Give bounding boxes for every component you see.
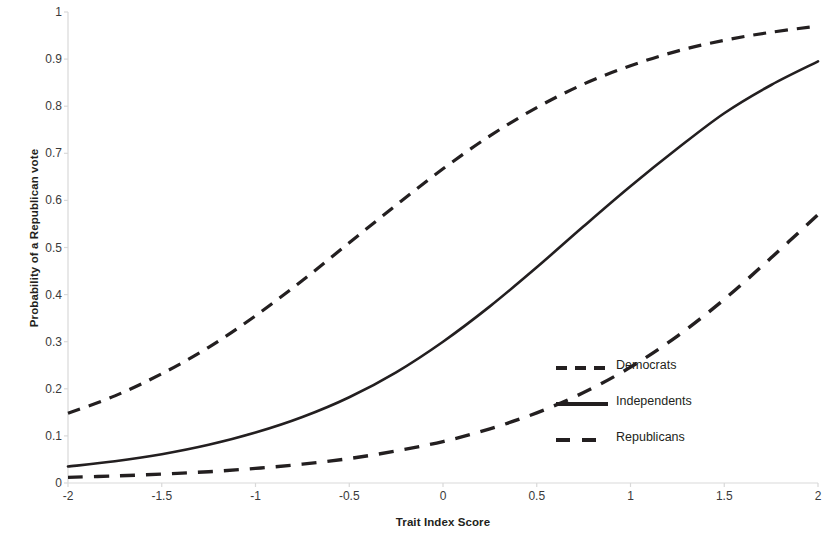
x-tick-label: -0.5 xyxy=(319,489,379,503)
x-tick-label: -2 xyxy=(38,489,98,503)
x-tick-label: 2 xyxy=(788,489,826,503)
x-tick-label: -1 xyxy=(226,489,286,503)
x-tick-label: -1.5 xyxy=(132,489,192,503)
legend-item-independents: Independents xyxy=(556,392,766,428)
x-tick-label: 1.5 xyxy=(694,489,754,503)
chart-legend: Democrats Independents Republicans xyxy=(556,356,766,464)
legend-key-republicans xyxy=(556,438,608,442)
y-axis-title: Probability of a Republican vote xyxy=(28,108,40,368)
y-tick-label: 0 xyxy=(16,477,62,489)
legend-label-republicans: Republicans xyxy=(616,430,685,444)
legend-key-independents xyxy=(556,402,608,406)
legend-item-democrats: Democrats xyxy=(556,356,766,392)
x-tick-label-group: -2-1.5-1-0.500.511.52 xyxy=(0,489,821,509)
legend-key-democrats xyxy=(556,366,608,370)
x-tick-label: 1 xyxy=(601,489,661,503)
y-tick-label: 0.9 xyxy=(16,53,62,65)
y-tick-label: 0.2 xyxy=(16,383,62,395)
y-tick-label: 0.1 xyxy=(16,430,62,442)
x-axis-title: Trait Index Score xyxy=(68,516,818,528)
legend-label-democrats: Democrats xyxy=(616,358,676,372)
x-tick-label: 0 xyxy=(413,489,473,503)
y-tick-label: 1 xyxy=(16,6,62,18)
x-tick-label: 0.5 xyxy=(507,489,567,503)
legend-item-republicans: Republicans xyxy=(556,428,766,464)
legend-label-independents: Independents xyxy=(616,394,692,408)
